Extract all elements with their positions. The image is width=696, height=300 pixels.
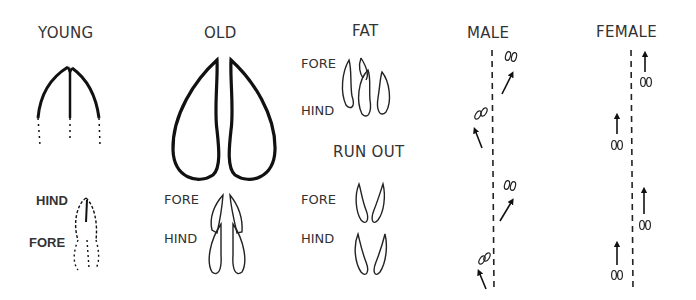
- track-illustrations: [0, 0, 696, 300]
- old-fore-hind-tracks-icon: [209, 195, 245, 274]
- young-hind-fore-tracks-icon: [74, 198, 98, 270]
- male-trail-icon: [474, 50, 518, 290]
- young-hoof-icon: [38, 67, 100, 145]
- female-trail-icon: [612, 50, 652, 290]
- runout-tracks-icon: [355, 184, 386, 274]
- fat-tracks-icon: [342, 58, 389, 116]
- old-hoof-icon: [173, 60, 275, 179]
